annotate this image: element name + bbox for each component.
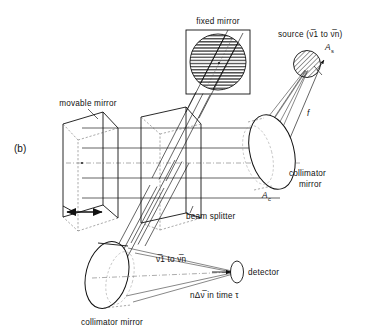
beam-splitter-side (186, 107, 201, 218)
collimator-area-subscript: c (268, 196, 271, 202)
detector-assembly (212, 261, 244, 283)
movable-mirror-label: movable mirror (59, 99, 116, 108)
beam-range-to: to (165, 255, 177, 264)
source-label-nun: ν̅n (330, 29, 339, 39)
fixed-mirror-assembly (186, 30, 250, 95)
source-label-to: to (318, 30, 330, 39)
fixed-mirror-label: fixed mirror (196, 17, 239, 26)
beam-range-nun: ν̅n (177, 254, 186, 264)
movable-mirror-plane (63, 112, 103, 217)
source-label: source (ν̅1 to ν̅n) (278, 29, 343, 39)
panel-label: (b) (14, 143, 26, 154)
beam-range-nu1: ν̅1 (156, 254, 165, 264)
collimator-mirror-bottom-label: collimator mirror (81, 318, 143, 327)
movable-mirror-assembly (63, 112, 118, 231)
detector-element (231, 261, 244, 283)
movable-mirror-back-bottom (78, 218, 118, 231)
beam-splitter-plane (141, 107, 186, 223)
source-disc (294, 51, 321, 78)
source-area-label: A (324, 42, 331, 52)
collimator-area-label: A (261, 190, 268, 200)
movable-mirror-centre-dot (81, 162, 83, 164)
source-label-suffix: ) (340, 30, 343, 39)
source-label-prefix: source ( (278, 30, 309, 39)
diagram-canvas: (b) fixed mirror movable mirror beam spl… (0, 0, 367, 336)
collimator-mirror-bottom-face (78, 237, 135, 313)
collimator-mirror-right-label: collimator (289, 169, 326, 178)
detector-label: detector (248, 268, 279, 277)
collimator-mirror-right-assembly (237, 110, 302, 194)
optics-diagram-figure: (b) fixed mirror movable mirror beam spl… (0, 0, 367, 336)
collimator-mirror-right-face (241, 110, 302, 194)
beam-range-label: ν̅1 to ν̅n (156, 254, 187, 264)
source-area-subscript: s (331, 48, 334, 54)
fixed-mirror-centre-dot (218, 62, 220, 64)
throughput-label: nΔν̅ in time τ (190, 290, 239, 300)
source-label-nu1: ν̅1 (309, 29, 318, 39)
beam-splitter-label: beam splitter (186, 212, 236, 221)
collimator-mirror-right-label-2: mirror (299, 180, 322, 189)
focal-length-label: f (307, 108, 311, 118)
